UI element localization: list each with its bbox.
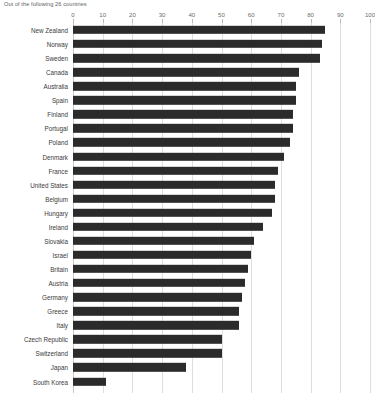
category-label: Australia	[44, 83, 69, 90]
category-label: Norway	[47, 41, 68, 48]
bar	[73, 265, 248, 273]
bar-row: Greece	[0, 304, 375, 318]
category-label: Czech Republic	[24, 336, 68, 343]
category-label: Denmark	[42, 153, 68, 160]
bar	[73, 251, 251, 259]
bar-row: Canada	[0, 65, 375, 79]
bar-row: Israel	[0, 248, 375, 262]
bar	[73, 293, 242, 301]
bar-row: Ireland	[0, 220, 375, 234]
bar-row: Portugal	[0, 121, 375, 135]
category-label: Portugal	[45, 125, 68, 132]
bar-row: Australia	[0, 79, 375, 93]
category-label: Switzerland	[35, 350, 68, 357]
bar	[73, 152, 284, 160]
bar-row: Hungary	[0, 206, 375, 220]
bar	[73, 237, 254, 245]
bar	[73, 321, 239, 329]
bar-row: New Zealand	[0, 23, 375, 37]
bar-row: Germany	[0, 290, 375, 304]
bar	[73, 138, 290, 146]
category-label: Canada	[46, 69, 68, 76]
bar	[73, 68, 299, 76]
bar	[73, 377, 106, 385]
category-label: Japan	[51, 364, 68, 371]
bar-row: Italy	[0, 318, 375, 332]
bar	[73, 166, 278, 174]
bar	[73, 82, 296, 90]
bar-row: Britain	[0, 262, 375, 276]
bar-row: United States	[0, 178, 375, 192]
bar	[73, 110, 293, 118]
category-label: Italy	[56, 322, 68, 329]
bar	[73, 363, 186, 371]
bar	[73, 279, 245, 287]
bar-row: Finland	[0, 107, 375, 121]
bar-row: South Korea	[0, 375, 375, 389]
category-label: Austria	[48, 280, 68, 287]
bar	[73, 96, 296, 104]
category-label: France	[48, 167, 68, 174]
bar-row: Denmark	[0, 150, 375, 164]
category-label: Greece	[47, 308, 68, 315]
category-label: Poland	[48, 139, 68, 146]
bar	[73, 180, 275, 188]
bar	[73, 40, 322, 48]
category-label: Hungary	[44, 209, 68, 216]
bar-row: Norway	[0, 37, 375, 51]
category-label: United States	[30, 181, 68, 188]
bar-chart: Out of the following 26 countries 010203…	[0, 0, 375, 396]
category-label: South Korea	[33, 378, 68, 385]
bar	[73, 223, 263, 231]
bar-row: Slovakia	[0, 234, 375, 248]
category-label: Israel	[53, 251, 68, 258]
bar	[73, 349, 222, 357]
category-label: Spain	[52, 97, 68, 104]
category-label: Finland	[47, 111, 68, 118]
bar	[73, 195, 275, 203]
bar-row: Czech Republic	[0, 332, 375, 346]
bar	[73, 124, 293, 132]
category-label: Sweden	[45, 55, 68, 62]
category-label: Ireland	[49, 223, 68, 230]
category-label: Slovakia	[44, 237, 68, 244]
category-label: Germany	[42, 294, 68, 301]
category-label: Britain	[50, 266, 68, 273]
bar	[73, 209, 272, 217]
bar-row: Belgium	[0, 192, 375, 206]
bar-row: Poland	[0, 135, 375, 149]
bar-row: Sweden	[0, 51, 375, 65]
category-label: New Zealand	[31, 27, 68, 34]
bar-row: Austria	[0, 276, 375, 290]
bar-row: Japan	[0, 360, 375, 374]
bar-rows: New ZealandNorwaySwedenCanadaAustraliaSp…	[0, 0, 375, 396]
bar-row: Switzerland	[0, 346, 375, 360]
bar	[73, 335, 222, 343]
bar	[73, 26, 325, 34]
bar-row: Spain	[0, 93, 375, 107]
category-label: Belgium	[45, 195, 68, 202]
bar	[73, 54, 320, 62]
bar-row: France	[0, 164, 375, 178]
bar	[73, 307, 239, 315]
